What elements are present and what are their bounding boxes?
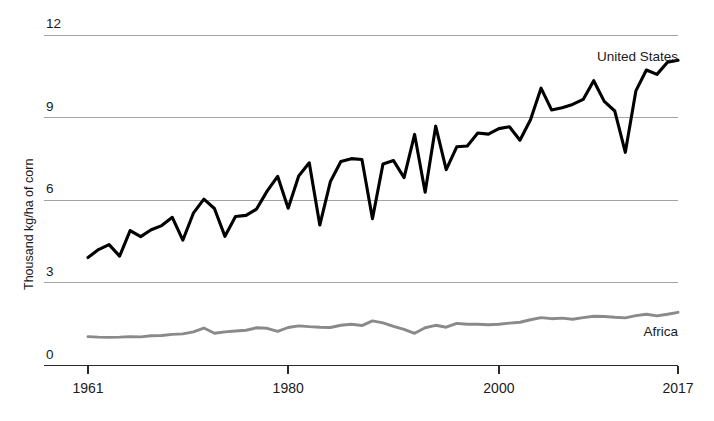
chart-container: 036912 1961198020002017 Thousand kg/ha o…	[0, 0, 714, 421]
series-line-united-states	[88, 60, 678, 257]
x-axis-tick-label: 2000	[483, 380, 514, 396]
series-label-africa: Africa	[643, 324, 678, 339]
y-axis-tick-labels: 036912	[46, 16, 61, 362]
x-axis-tick-label: 1980	[273, 380, 304, 396]
series-line-africa	[88, 312, 678, 337]
y-axis-tick-label: 6	[46, 181, 54, 196]
y-axis-tick-label: 12	[46, 16, 61, 31]
x-axis-tick-label: 2017	[662, 380, 693, 396]
y-axis-tick-label: 3	[46, 264, 54, 279]
x-axis-ticks	[88, 366, 678, 375]
x-axis-tick-label: 1961	[72, 380, 103, 396]
line-chart: 036912 1961198020002017 Thousand kg/ha o…	[0, 0, 714, 421]
series-label-united-states: United States	[597, 49, 678, 64]
y-axis-title: Thousand kg/ha of corn	[22, 159, 36, 290]
y-axis-tick-label: 0	[46, 347, 54, 362]
x-axis-tick-labels: 1961198020002017	[72, 380, 693, 396]
y-axis-tick-label: 9	[46, 99, 54, 114]
